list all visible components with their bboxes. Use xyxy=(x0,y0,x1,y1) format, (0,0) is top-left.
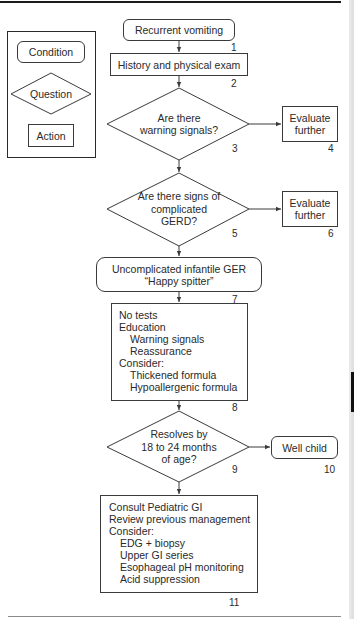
node-8-line: Consider: xyxy=(119,357,247,369)
node-recurrent-vomiting: Recurrent vomiting xyxy=(123,19,235,41)
node-11-line: Upper GI series xyxy=(109,549,257,561)
node-8-line: Reassurance xyxy=(119,345,247,357)
node-10-label: Well child xyxy=(282,442,327,454)
node-7-line: “Happy spitter” xyxy=(145,275,214,287)
node-4-line: further xyxy=(295,124,325,136)
node-3-number: 3 xyxy=(232,144,238,154)
legend-action-label: Action xyxy=(36,130,65,142)
node-6-number: 6 xyxy=(328,229,334,239)
node-9-number: 9 xyxy=(232,465,238,475)
legend-action: Action xyxy=(28,124,74,147)
node-5-line: complicated xyxy=(151,203,207,216)
node-8-line: No tests xyxy=(119,309,247,321)
node-4-line: Evaluate xyxy=(290,112,331,124)
node-evaluate-further-6: Evaluate further xyxy=(282,191,338,227)
node-8-line: Hypoallergenic formula xyxy=(119,381,247,393)
node-11-line: Acid suppression xyxy=(109,573,257,585)
node-8-line: Warning signals xyxy=(119,333,247,345)
node-3-line: Are there xyxy=(157,112,200,125)
node-2-label: History and physical exam xyxy=(118,59,241,71)
node-uncomplicated-ger: Uncomplicated infantile GER “Happy spitt… xyxy=(96,257,262,292)
node-5-line: GERD? xyxy=(161,215,197,228)
node-1-label: Recurrent vomiting xyxy=(135,24,223,36)
node-2-number: 2 xyxy=(231,79,237,89)
node-6-line: further xyxy=(295,209,325,221)
node-8-number: 8 xyxy=(232,403,238,413)
node-11-line: Esophageal pH monitoring xyxy=(109,561,257,573)
node-well-child: Well child xyxy=(271,436,338,459)
node-3-line: warning signals? xyxy=(140,124,218,137)
node-warning-signals-question: Are there warning signals? xyxy=(125,111,233,137)
node-8-line: Thickened formula xyxy=(119,369,247,381)
node-history-physical: History and physical exam xyxy=(110,53,248,76)
node-9-line: 18 to 24 months xyxy=(141,441,216,454)
node-11-line: Consult Pediatric GI xyxy=(109,501,257,513)
node-consult-gi-list: Consult Pediatric GI Review previous man… xyxy=(100,495,258,593)
node-9-line: of age? xyxy=(161,453,196,466)
legend-condition-label: Condition xyxy=(29,46,73,58)
node-resolves-question: Resolves by 18 to 24 months of age? xyxy=(125,428,233,466)
node-6-line: Evaluate xyxy=(290,197,331,209)
node-4-number: 4 xyxy=(328,144,334,154)
node-11-number: 11 xyxy=(229,598,239,608)
node-1-number: 1 xyxy=(231,43,237,53)
node-evaluate-further-4: Evaluate further xyxy=(282,106,338,142)
node-5-number: 5 xyxy=(232,229,238,239)
node-10-number: 10 xyxy=(324,465,335,475)
node-5-line: Are there signs of xyxy=(138,190,220,203)
node-11-line: Review previous management xyxy=(109,513,257,525)
node-11-line: Consider: xyxy=(109,525,257,537)
node-management-list: No tests Education Warning signals Reass… xyxy=(111,303,248,401)
legend-condition: Condition xyxy=(17,41,85,63)
legend-question-label: Question xyxy=(30,88,72,101)
legend-question: Question xyxy=(11,86,91,102)
node-9-line: Resolves by xyxy=(150,428,207,441)
node-11-line: EDG + biopsy xyxy=(109,537,257,549)
node-7-line: Uncomplicated infantile GER xyxy=(112,263,246,275)
node-complicated-gerd-question: Are there signs of complicated GERD? xyxy=(125,190,233,228)
node-8-line: Education xyxy=(119,321,247,333)
